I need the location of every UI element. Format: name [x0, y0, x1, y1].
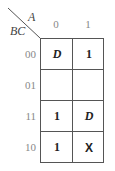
- cell-00-0: D: [41, 39, 73, 70]
- cell-00-1: 1: [73, 39, 105, 70]
- cell-01-0: [41, 70, 73, 101]
- row-header-00: 00: [14, 49, 36, 60]
- cell-10-1: X: [73, 132, 105, 163]
- cell-10-0: 1: [41, 132, 73, 163]
- cell-01-1: [73, 70, 105, 101]
- cell-11-1: D: [73, 101, 105, 132]
- column-variable-label: A: [28, 11, 35, 23]
- row-header-11: 11: [14, 111, 36, 122]
- row-header-10: 10: [14, 142, 36, 153]
- cell-11-0: 1: [41, 101, 73, 132]
- row-header-01: 01: [14, 80, 36, 91]
- column-header-1: 1: [72, 19, 104, 30]
- row-variable-label: BC: [10, 25, 25, 37]
- column-header-0: 0: [40, 19, 72, 30]
- karnaugh-map-grid: D 1 1 D 1 X: [40, 38, 104, 163]
